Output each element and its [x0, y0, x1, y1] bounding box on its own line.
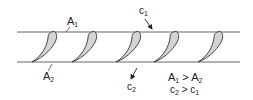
- label-c2: c2: [127, 81, 136, 93]
- label-a1: A1: [67, 15, 78, 28]
- relation-area: A1 > A2: [168, 71, 203, 84]
- label-c1: c1: [139, 5, 148, 17]
- label-a2: A2: [43, 70, 54, 83]
- c2-arrow: [131, 68, 137, 79]
- blade-cascade-diagram: A1 A2 c1 c2 A1 > A2 c2 > c1: [0, 0, 253, 100]
- blades: [32, 31, 223, 62]
- c1-arrow: [145, 19, 152, 29]
- relation-velocity: c2 > c1: [170, 84, 199, 96]
- a1-leader: [66, 27, 70, 32]
